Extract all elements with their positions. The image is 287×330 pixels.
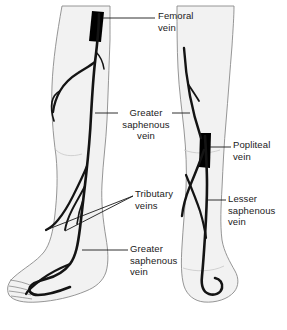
label-tributary-veins: Tributary veins [135,188,173,211]
right-leg-view [177,6,238,302]
label-greater-saphenous-vein-upper: Greater saphenous vein [122,107,170,142]
label-lesser-saphenous-vein: Lesser saphenous vein [228,193,275,228]
left-leg-silhouette [8,6,110,302]
leg-vein-diagram [0,0,287,330]
label-femoral-vein: Femoral vein [158,10,194,33]
left-leg-view [8,6,110,302]
label-greater-saphenous-vein-lower: Greater saphenous vein [130,243,177,278]
label-popliteal-vein: Popliteal vein [233,139,270,162]
